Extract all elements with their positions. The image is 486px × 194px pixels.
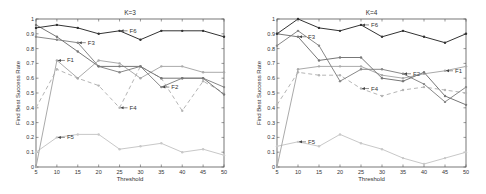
data-point	[402, 80, 404, 82]
x-tick-label: 25	[116, 169, 122, 175]
data-point	[360, 87, 362, 89]
y-tick-label: 0.7	[26, 60, 34, 66]
data-point	[35, 166, 37, 168]
data-point	[202, 71, 204, 73]
data-point	[97, 65, 99, 67]
series-annotation-label: F6	[130, 28, 138, 34]
data-point	[77, 133, 79, 135]
x-tick-label: 40	[421, 169, 427, 175]
data-point	[77, 41, 79, 43]
x-tick-label: 30	[379, 169, 385, 175]
chart-title: K=4	[366, 9, 378, 16]
data-point	[139, 145, 141, 147]
x-tick-label: 15	[75, 169, 81, 175]
data-point	[381, 77, 383, 79]
y-tick-label: 0.4	[267, 105, 275, 111]
series-annotation-label: F4	[371, 86, 379, 92]
data-point	[297, 18, 299, 20]
x-tick-label: 5	[34, 169, 37, 175]
y-tick-label: 0.8	[267, 46, 275, 52]
data-point	[223, 86, 225, 88]
data-point	[223, 93, 225, 95]
data-point	[139, 39, 141, 41]
data-point	[160, 30, 162, 32]
data-point	[223, 36, 225, 38]
data-point	[56, 136, 58, 138]
data-point	[276, 104, 278, 106]
data-point	[139, 65, 141, 67]
data-point	[360, 56, 362, 58]
data-point	[56, 59, 58, 61]
data-point	[402, 30, 404, 32]
y-tick-label: 0.7	[267, 60, 275, 66]
data-point	[339, 65, 341, 67]
data-point	[223, 154, 225, 156]
data-point	[139, 77, 141, 79]
data-point	[35, 151, 37, 153]
y-tick-label: 1	[272, 16, 275, 22]
data-point	[402, 77, 404, 79]
x-tick-label: 45	[442, 169, 448, 175]
data-point	[202, 30, 204, 32]
x-tick-label: 45	[200, 169, 206, 175]
y-axis-label: Find Best Success Rate	[256, 60, 262, 125]
data-point	[318, 74, 320, 76]
y-tick-label: 0.3	[267, 120, 275, 126]
data-point	[318, 145, 320, 147]
data-point	[160, 142, 162, 144]
data-point	[465, 151, 467, 153]
data-point	[297, 141, 299, 143]
data-point	[444, 41, 446, 43]
y-tick-label: 0.9	[267, 31, 275, 37]
series-annotation-label: F2	[171, 84, 179, 90]
x-tick-label: 15	[316, 169, 322, 175]
series-annotation-label: F3	[88, 40, 96, 46]
data-point	[160, 65, 162, 67]
data-point	[35, 107, 37, 109]
data-point	[423, 71, 425, 73]
data-point	[381, 68, 383, 70]
data-point	[360, 24, 362, 26]
y-tick-label: 0.2	[26, 134, 34, 140]
y-tick-label: 0.5	[26, 90, 34, 96]
x-tick-label: 35	[400, 169, 406, 175]
y-tick-label: 0.4	[26, 105, 34, 111]
data-point	[381, 74, 383, 76]
data-point	[77, 50, 79, 52]
series-annotation-label: F5	[308, 139, 316, 145]
data-point	[339, 30, 341, 32]
data-point	[181, 77, 183, 79]
data-point	[118, 148, 120, 150]
x-tick-label: 35	[158, 169, 164, 175]
data-point	[402, 89, 404, 91]
data-point	[297, 36, 299, 38]
x-tick-label: 25	[358, 169, 364, 175]
data-point	[423, 163, 425, 165]
data-point	[339, 56, 341, 58]
x-tick-label: 5	[275, 169, 278, 175]
series-annotation-label: F1	[67, 57, 75, 63]
y-tick-label: 0.1	[26, 149, 34, 155]
data-point	[77, 77, 79, 79]
data-point	[35, 27, 37, 29]
data-point	[35, 24, 37, 26]
x-tick-label: 30	[137, 169, 143, 175]
data-point	[202, 77, 204, 79]
data-point	[160, 86, 162, 88]
data-point	[181, 110, 183, 112]
data-point	[97, 133, 99, 135]
data-point	[56, 39, 58, 41]
data-point	[339, 74, 341, 76]
chart-panel-1: K=300.10.20.30.40.50.60.70.80.9151015202…	[15, 9, 227, 182]
data-point	[56, 24, 58, 26]
data-point	[381, 148, 383, 150]
x-tick-label: 50	[221, 169, 227, 175]
data-point	[160, 77, 162, 79]
x-tick-label: 50	[463, 169, 469, 175]
data-point	[56, 36, 58, 38]
y-tick-label: 1	[31, 16, 34, 22]
data-point	[202, 80, 204, 82]
data-point	[97, 33, 99, 35]
y-tick-label: 0.9	[26, 31, 34, 37]
data-point	[402, 73, 404, 75]
